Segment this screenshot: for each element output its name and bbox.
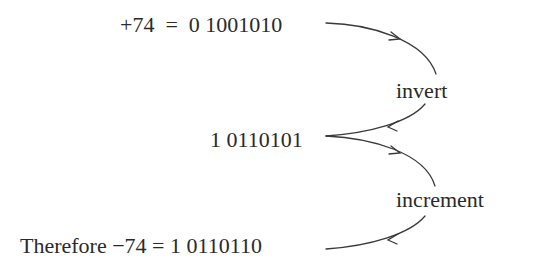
arrow-increment-to-result: [326, 216, 425, 249]
arrow-inverted-to-increment: [326, 136, 435, 186]
arrowhead-icon: [388, 121, 398, 131]
arrow-invert-to-inverted: [326, 104, 425, 136]
flow-arrows: [0, 0, 536, 273]
arrow-original-to-invert: [326, 23, 436, 74]
